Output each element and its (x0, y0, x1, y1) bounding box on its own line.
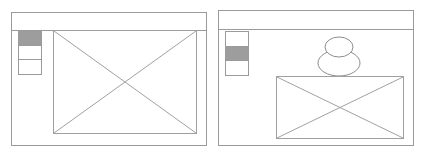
nav-item-3[interactable] (19, 60, 41, 74)
vertical-nav (18, 30, 42, 75)
avatar-head-ellipse (325, 37, 353, 57)
avatar-person-icon (309, 33, 369, 79)
nav-item-2[interactable] (19, 46, 41, 61)
image-placeholder (53, 30, 197, 134)
nav-item-3[interactable] (226, 61, 248, 75)
mockup-layout-variant-b (218, 10, 414, 146)
nav-item-1[interactable] (19, 31, 41, 46)
nav-item-1[interactable] (226, 32, 248, 47)
wireframe-comparison-diagram (0, 0, 422, 157)
image-placeholder (276, 76, 404, 139)
mockup-layout-variant-a (11, 12, 207, 146)
image-placeholder-cross-icon (277, 77, 403, 138)
image-placeholder-cross-icon (54, 31, 196, 133)
header-bar (219, 19, 413, 30)
nav-item-2[interactable] (226, 47, 248, 62)
vertical-nav (225, 31, 249, 76)
